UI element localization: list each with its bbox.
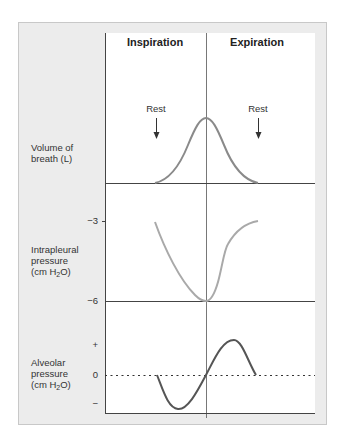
intrapleural-label-line2: pressure (31, 255, 79, 266)
volume-label: Volume of breath (L) (31, 142, 73, 164)
rest-label-right: Rest (238, 103, 278, 114)
intrapleural-label-line1: Intrapleural (31, 244, 79, 255)
header-inspiration: Inspiration (105, 36, 205, 48)
alveolar-label-line1: Alveolar (31, 357, 71, 368)
rest-label-left: Rest (136, 103, 176, 114)
alveolar-tick-zero: 0 (78, 369, 98, 380)
alveolar-label-line3: (cm H2O) (31, 379, 71, 390)
rest-arrow-left-icon (154, 118, 160, 139)
alveolar-label-line2: pressure (31, 368, 71, 379)
alveolar-tick-minus: − (78, 398, 98, 409)
intrapleural-tick-neg3: −3 (78, 215, 98, 226)
volume-label-line2: breath (L) (31, 153, 73, 164)
volume-label-line1: Volume of (31, 142, 73, 153)
intrapleural-label: Intrapleural pressure (cm H2O) (31, 244, 79, 277)
intrapleural-label-line3: (cm H2O) (31, 266, 79, 277)
alveolar-tick-plus: + (78, 339, 98, 350)
rest-arrow-right-icon (256, 118, 262, 139)
intrapleural-tick-neg6: −6 (78, 295, 98, 306)
alveolar-label: Alveolar pressure (cm H2O) (31, 357, 71, 390)
header-expiration: Expiration (207, 36, 307, 48)
